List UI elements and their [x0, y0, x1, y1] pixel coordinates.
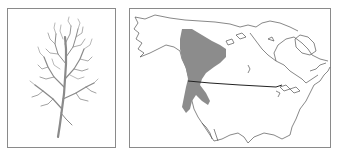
tree-icon [8, 9, 117, 149]
north-america-map [130, 9, 332, 149]
range-map-panel: North America range map [129, 8, 331, 148]
us-canada-border [188, 81, 282, 87]
tree-illustration-panel: Leafless tree silhouette [7, 8, 116, 148]
species-range-area [180, 29, 226, 113]
